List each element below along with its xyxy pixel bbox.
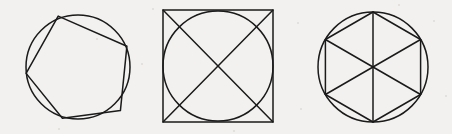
paper-speck [58,128,60,130]
figure-pentagon-in-circle [26,15,130,119]
hexagon-diagonals [325,12,420,122]
pentagon-circumcircle [26,15,130,119]
paper-speck [445,95,447,97]
paper-speck [233,130,235,132]
paper-speck [96,38,98,40]
figure-hexagon-in-circle [318,12,428,122]
paper-speck [433,20,435,22]
geometry-figure-sheet [0,0,452,134]
square-diagonals [163,10,273,122]
paper-speck [152,8,154,10]
paper-speck [398,4,400,6]
paper-speck [141,63,143,65]
figure-circle-in-square [163,10,273,122]
figures-canvas [0,0,452,134]
paper-speck [297,22,299,24]
paper-speck [300,108,302,110]
